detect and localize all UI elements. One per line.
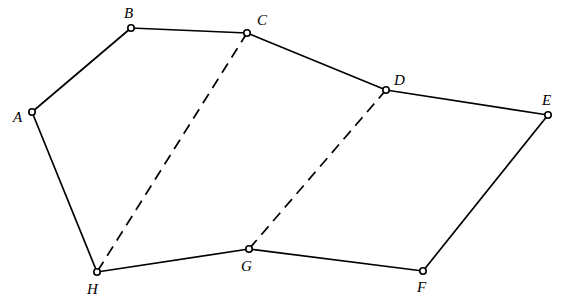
vertex-marker-c [244,30,250,36]
vertex-label-h: H [86,281,99,297]
edge-gh [97,249,249,272]
vertex-label-d: D [393,72,405,88]
vertex-marker-d [383,87,389,93]
geometry-diagram: ABCDEFGH [0,0,569,303]
edge-fg [249,249,423,271]
vertex-markers-layer [29,25,551,275]
diagram-canvas: ABCDEFGH [0,0,569,303]
vertex-marker-a [29,109,35,115]
edge-de [386,90,548,115]
edge-bc [131,28,247,33]
vertex-label-a: A [12,109,23,125]
vertex-marker-f [420,268,426,274]
edge-cd [247,33,386,90]
edge-ab [32,28,131,112]
edge-ha [32,112,97,272]
edges-layer [32,28,548,272]
edge-dg [249,90,386,249]
vertex-label-b: B [124,5,133,21]
vertex-marker-e [545,112,551,118]
vertex-label-c: C [257,12,268,28]
edge-ef [423,115,548,271]
vertex-label-e: E [541,92,551,108]
vertex-marker-b [128,25,134,31]
edge-ch [97,33,247,272]
vertex-label-f: F [416,279,427,295]
vertex-marker-g [246,246,252,252]
vertex-label-g: G [241,258,252,274]
vertex-marker-h [94,269,100,275]
